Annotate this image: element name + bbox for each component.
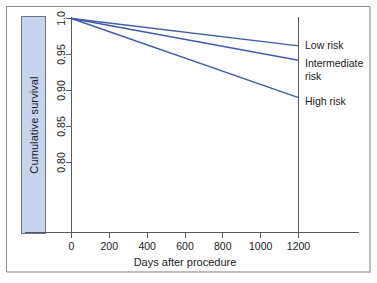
series-label-low-risk: Low risk: [305, 39, 344, 51]
y-tick-label-0.80: 0.80: [55, 152, 67, 173]
y-tick-label-0.90: 0.90: [55, 80, 67, 101]
x-tick-label-1000: 1000: [249, 240, 273, 252]
x-tick-label-200: 200: [101, 240, 119, 252]
series-label-high-risk: High risk: [305, 95, 347, 107]
x-tick-label-600: 600: [176, 240, 194, 252]
curve-low-risk: [72, 19, 299, 46]
x-axis-title: Days after procedure: [134, 256, 237, 268]
x-tick-label-400: 400: [138, 240, 156, 252]
series-label-intermediate-risk-line2: risk: [305, 70, 322, 82]
y-tick-label-0.95: 0.95: [55, 44, 67, 65]
x-tick-label-800: 800: [214, 240, 232, 252]
series-label-intermediate-risk-line1: Intermediate: [305, 57, 364, 69]
y-tick-label-0.85: 0.85: [55, 116, 67, 137]
x-tick-label-1200: 1200: [287, 240, 311, 252]
x-tick-marks: [72, 233, 299, 239]
figure-root: Cumulative survival 1.0 0.95 0.90: [0, 0, 377, 283]
x-tick-labels: 0 200 400 600 800 1000 1200: [69, 240, 311, 252]
curve-high-risk: [72, 19, 299, 98]
y-tick-label-1.0: 1.0: [55, 11, 67, 26]
y-tick-labels: 1.0 0.95 0.90 0.85 0.80: [55, 11, 67, 173]
survival-plot: 1.0 0.95 0.90 0.85 0.80 0 200 400: [7, 7, 369, 271]
series-labels: Low risk Intermediate risk High risk: [305, 39, 364, 107]
chart-frame: Cumulative survival 1.0 0.95 0.90: [6, 6, 370, 272]
survival-curves: [72, 19, 299, 98]
curve-intermediate-risk: [72, 19, 299, 61]
x-tick-label-0: 0: [69, 240, 75, 252]
